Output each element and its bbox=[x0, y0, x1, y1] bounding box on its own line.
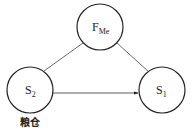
node-s2-label: S bbox=[25, 83, 32, 97]
node-s2: S2 粮仓 bbox=[7, 67, 53, 128]
su-field-diagram: FMe S2 粮仓 S1 bbox=[0, 0, 192, 135]
node-s2-subscript: 2 bbox=[32, 90, 36, 99]
node-s2-annotation: 粮仓 bbox=[20, 116, 41, 128]
edge-field-to-s1 bbox=[117, 43, 149, 72]
node-s1-label: S bbox=[156, 83, 163, 97]
node-field-subscript: Me bbox=[99, 27, 110, 36]
node-field-fme: FMe bbox=[77, 4, 123, 50]
node-s1: S1 bbox=[139, 67, 185, 113]
node-s1-subscript: 1 bbox=[163, 90, 167, 99]
edge-field-to-s2 bbox=[44, 43, 83, 71]
